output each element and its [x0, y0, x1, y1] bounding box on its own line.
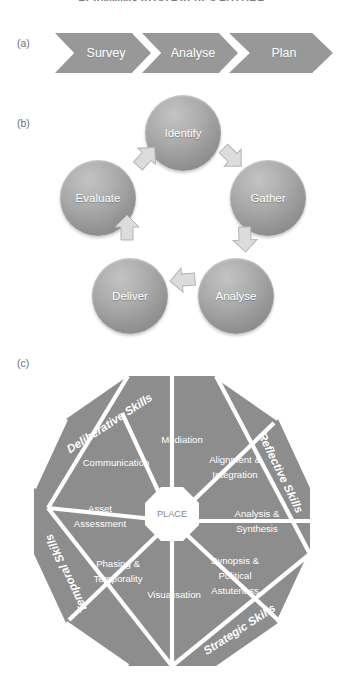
chevron-label: Plan: [271, 46, 296, 60]
octagon-segment-mediation: Mediation: [161, 434, 203, 445]
octagon-svg: PLACE Mediation Alignment & Integration …: [22, 368, 322, 674]
octagon-segment-phasing-line2: Temporality: [93, 573, 142, 584]
figure-page: PLANNING AUSTRALIA'S FUTURE (a) Survey A…: [0, 0, 343, 684]
cycle-node-deliver[interactable]: Deliver: [92, 258, 168, 334]
process-chevron-row: Survey Analyse Plan: [55, 33, 340, 73]
cycle-node-label: Gather: [250, 192, 285, 204]
arrow-gather-to-analyse-icon: [229, 223, 260, 254]
octagon-diagram: PLACE Mediation Alignment & Integration …: [22, 368, 322, 674]
octagon-segment-visualisation: Visualisation: [147, 589, 201, 600]
cycle-node-label: Evaluate: [76, 192, 121, 204]
cycle-node-label: Identify: [164, 127, 201, 139]
octagon-segment-synopsis-line3: Astuteness: [211, 585, 259, 596]
chevron-step-survey[interactable]: Survey: [55, 33, 151, 73]
cycle-node-label: Analyse: [216, 290, 257, 302]
document-title: PLANNING AUSTRALIA'S FUTURE: [0, 0, 343, 1]
panel-label-b: (b): [17, 117, 30, 129]
chevron-step-plan[interactable]: Plan: [229, 33, 333, 73]
chevron-label: Survey: [87, 46, 126, 60]
cycle-diagram: Identify Gather Analyse Deliver Evaluate: [40, 95, 325, 340]
octagon-hub-label: PLACE: [157, 509, 187, 519]
arrow-analyse-to-deliver-icon: [167, 264, 200, 297]
octagon-segment-analysis-line2: Synthesis: [236, 523, 278, 534]
chevron-label: Analyse: [171, 46, 215, 60]
octagon-segment-synopsis-line2: Political: [218, 570, 251, 581]
arrow-deliver-to-evaluate-icon: [112, 213, 142, 243]
octagon-segment-analysis-line1: Analysis &: [235, 508, 280, 519]
panel-label-a: (a): [17, 37, 30, 49]
cycle-node-analyse[interactable]: Analyse: [198, 258, 274, 334]
octagon-segment-alignment-line2: Integration: [212, 469, 257, 480]
octagon-segment-alignment-line1: Alignment &: [209, 454, 261, 465]
octagon-segment-asset-line2: Assessment: [74, 518, 127, 529]
octagon-segment-synopsis-line1: Synopsis &: [211, 555, 260, 566]
octagon-segment-phasing-line1: Phasing &: [96, 558, 140, 569]
chevron-step-analyse[interactable]: Analyse: [142, 33, 238, 73]
octagon-segment-asset-line1: Asset: [88, 503, 112, 514]
octagon-segment-communication: Communication: [83, 457, 150, 468]
cycle-node-label: Deliver: [112, 290, 148, 302]
